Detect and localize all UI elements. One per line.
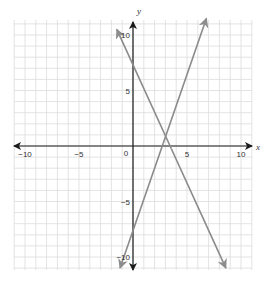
x-tick-label: 5	[185, 150, 190, 159]
y-axis-label: y	[136, 6, 141, 16]
y-tick-label: 10	[121, 31, 130, 40]
series-line-segment	[171, 149, 226, 268]
series-line-segment	[163, 18, 206, 143]
x-tick-label: −5	[74, 150, 84, 159]
x-tick-label: −10	[18, 150, 32, 159]
coordinate-plane: −10−50510105−5−10xy	[0, 0, 261, 285]
x-axis-label: x	[255, 142, 260, 152]
y-tick-label: 5	[126, 87, 131, 96]
y-tick-label: −5	[121, 198, 131, 207]
y-tick-label: −10	[116, 253, 130, 262]
origin-label: 0	[124, 149, 129, 158]
x-tick-label: 10	[237, 150, 246, 159]
